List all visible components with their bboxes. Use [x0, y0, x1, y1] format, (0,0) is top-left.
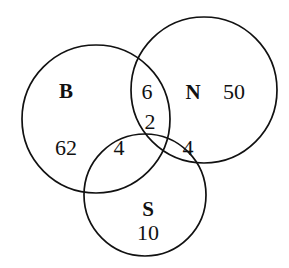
region-count-b-only: 62	[55, 137, 77, 159]
region-count-b-n-s: 2	[145, 111, 156, 133]
set-circle-n	[131, 17, 277, 163]
set-label-n: N	[185, 82, 200, 103]
region-count-b-and-s: 4	[114, 137, 125, 159]
region-count-b-and-n: 6	[142, 81, 153, 103]
region-count-n-and-s: 4	[183, 137, 194, 159]
region-count-s-only: 10	[137, 222, 159, 244]
set-label-s: S	[142, 199, 154, 220]
region-count-n-only: 50	[223, 81, 245, 103]
venn-diagram: B N S 62 4 6 2 4 50 10	[0, 0, 289, 268]
set-label-b: B	[59, 81, 73, 102]
